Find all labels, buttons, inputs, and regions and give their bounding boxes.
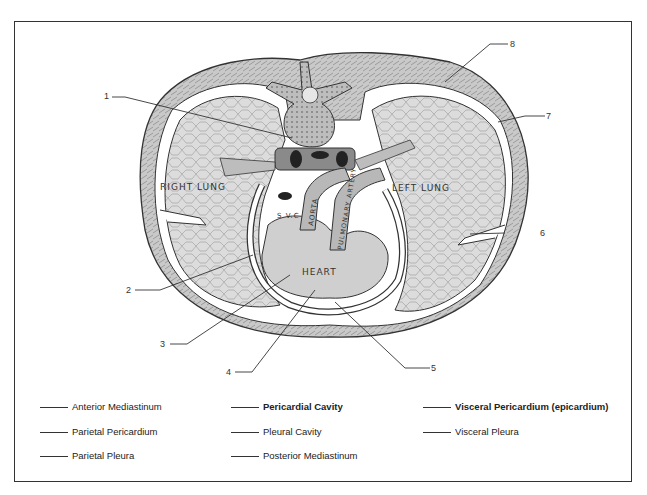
legend-item-posterior-mediastinum: Posterior Mediastinum: [231, 450, 358, 461]
callout-3: 3: [160, 339, 165, 349]
answer-blank[interactable]: [423, 407, 451, 408]
answer-blank[interactable]: [231, 432, 259, 433]
callout-5: 5: [431, 363, 436, 373]
legend-item-visceral-pleura: Visceral Pleura: [423, 426, 519, 437]
right-lung-label: RIGHT LUNG: [160, 182, 226, 192]
callout-7: 7: [546, 111, 551, 121]
legend-item-anterior-mediastinum: Anterior Mediastinum: [40, 401, 162, 412]
callout-2: 2: [126, 285, 131, 295]
legend-item-visceral-pericardium: Visceral Pericardium (epicardium): [423, 401, 608, 412]
legend-item-parietal-pericardium: Parietal Pericardium: [40, 426, 158, 437]
answer-blank[interactable]: [40, 456, 68, 457]
callout-8: 8: [510, 39, 515, 49]
callout-1: 1: [104, 91, 109, 101]
svc-label: S.V.C: [277, 212, 300, 220]
legend-item-parietal-pleura: Parietal Pleura: [40, 450, 134, 461]
answer-blank[interactable]: [40, 432, 68, 433]
answer-blank[interactable]: [231, 407, 259, 408]
legend-item-pleural-cavity: Pleural Cavity: [231, 426, 322, 437]
svc: [278, 192, 292, 200]
heart-label: HEART: [302, 267, 337, 277]
answer-blank[interactable]: [231, 456, 259, 457]
answer-blank[interactable]: [423, 432, 451, 433]
thorax-cross-section: RIGHT LUNG LEFT LUNG HEART S.V.C AORTA P…: [0, 0, 647, 495]
callout-6: 6: [540, 228, 545, 238]
legend-item-pericardial-cavity: Pericardial Cavity: [231, 401, 343, 412]
callout-4: 4: [226, 367, 231, 377]
left-lung-label: LEFT LUNG: [392, 183, 450, 193]
answer-blank[interactable]: [40, 407, 68, 408]
